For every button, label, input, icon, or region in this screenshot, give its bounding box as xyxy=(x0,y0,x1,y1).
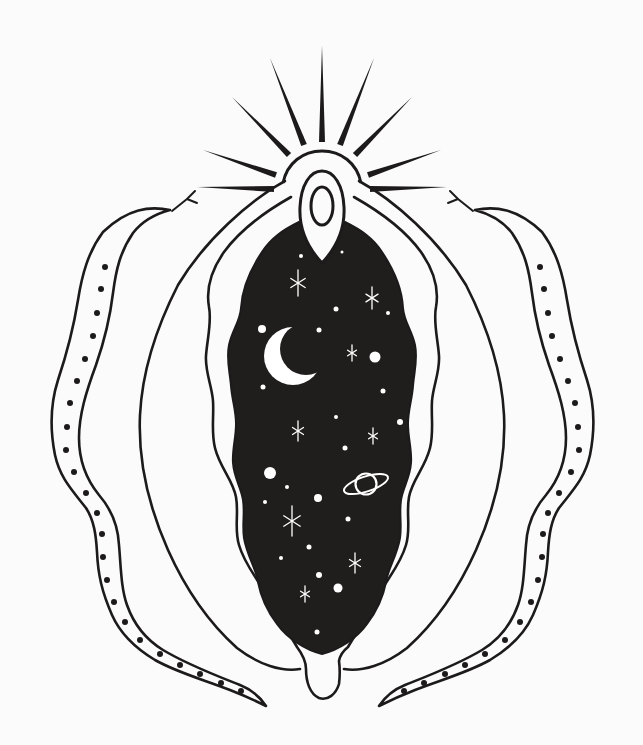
sun-ray xyxy=(319,45,325,142)
star-dot xyxy=(261,385,266,390)
snake-spot xyxy=(537,264,543,270)
snake-spot xyxy=(549,333,555,339)
star-dot xyxy=(263,500,267,504)
star-dot xyxy=(314,494,322,502)
snake-spot xyxy=(556,490,562,496)
snake-spot xyxy=(482,651,488,657)
snake-spot xyxy=(535,577,541,583)
night-sky-center xyxy=(228,222,416,654)
sun-ray xyxy=(232,97,291,157)
star-dot xyxy=(317,328,322,333)
snake-spot xyxy=(517,619,523,625)
snake-spot xyxy=(102,264,108,270)
snake-spot xyxy=(540,531,546,537)
snake-spot xyxy=(157,651,163,657)
snake-spot xyxy=(90,333,96,339)
sun-ray xyxy=(270,58,307,146)
star-dot xyxy=(334,307,339,312)
left-snake-tongue xyxy=(172,191,197,211)
snake-spot xyxy=(462,662,468,668)
snake-spot xyxy=(67,400,73,406)
snake-spot xyxy=(82,356,88,362)
sun-ray xyxy=(337,58,374,146)
star-dot xyxy=(341,251,344,254)
snake-spot xyxy=(111,599,117,605)
star-dot xyxy=(343,446,348,451)
snake-spot xyxy=(545,510,551,516)
star-dot xyxy=(307,545,312,550)
sun-ray xyxy=(353,97,412,157)
snake-spot xyxy=(64,424,70,430)
star-dot xyxy=(397,419,403,425)
snake-spot xyxy=(122,619,128,625)
snake-spot xyxy=(502,637,508,643)
snake-spot xyxy=(63,447,69,453)
sun-ray xyxy=(367,150,441,178)
snake-spot xyxy=(94,310,100,316)
right-snake-tongue xyxy=(448,191,473,211)
snake-spot xyxy=(541,286,547,292)
snake-spot xyxy=(94,510,100,516)
snake-spot xyxy=(557,356,563,362)
snake-spot xyxy=(539,554,545,560)
snake-spot xyxy=(568,469,574,475)
illustration-stage xyxy=(0,0,643,745)
sun-ray xyxy=(197,186,274,192)
snake-spot xyxy=(575,424,581,430)
star-dot xyxy=(315,630,320,635)
snake-spot xyxy=(576,447,582,453)
star-dot xyxy=(381,389,386,394)
star-dot xyxy=(279,556,283,560)
snake-spot xyxy=(74,378,80,384)
snake-spot xyxy=(197,671,203,677)
snake-spot xyxy=(421,680,427,686)
sun-ray xyxy=(370,186,447,192)
snake-spot xyxy=(83,490,89,496)
snake-spot xyxy=(71,469,77,475)
star-dot xyxy=(334,584,343,593)
snake-spot xyxy=(442,671,448,677)
celestial-vulva-illustration xyxy=(0,0,643,745)
snake-spot xyxy=(565,378,571,384)
snake-spot xyxy=(100,554,106,560)
snake-spot xyxy=(137,637,143,643)
star-dot xyxy=(346,517,351,522)
snake-spot xyxy=(218,680,224,686)
star-dot xyxy=(285,485,289,489)
snake-spot xyxy=(545,310,551,316)
snake-spot xyxy=(401,688,407,694)
star-dot xyxy=(370,352,381,363)
star-dot xyxy=(334,415,338,419)
snake-spot xyxy=(177,662,183,668)
sun-ray xyxy=(203,150,277,178)
snake-spot xyxy=(528,599,534,605)
star-dot xyxy=(258,325,266,333)
star-dot xyxy=(299,254,303,258)
snake-spot xyxy=(99,531,105,537)
snake-spot xyxy=(104,577,110,583)
moon-bite xyxy=(280,323,332,375)
snake-spot xyxy=(572,400,578,406)
star-dot xyxy=(386,311,390,315)
star-dot xyxy=(316,572,322,578)
snake-spot xyxy=(98,286,104,292)
snake-spot xyxy=(238,688,244,694)
clitoris-oval xyxy=(311,187,333,225)
star-dot xyxy=(264,467,276,479)
